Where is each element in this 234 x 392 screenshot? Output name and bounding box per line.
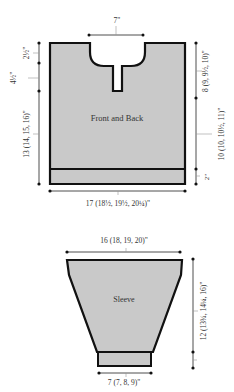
sleeve-cuff-width-dimension: 7 (7, 8, 9)" — [97, 371, 152, 387]
sleeve-length-dimension: 12 (13¾, 14¼, 16)" — [191, 257, 208, 369]
schematic-diagram: Front and Back 7" 2½" 4½" 13 (14, 15, 16… — [0, 0, 234, 392]
length-to-placket-label: 13 (14, 15, 16)" — [22, 110, 31, 157]
armhole-depth-label: 8 (9, 9½, 10)" — [201, 50, 210, 92]
side-length-label: 10 (10, 10½, 11)" — [217, 108, 226, 161]
front-back-piece: Front and Back — [50, 43, 185, 184]
sleeve-length-label: 12 (13¾, 14¼, 16)" — [199, 282, 208, 341]
sleeve-top-width-dimension: 16 (18, 19, 20)" — [65, 236, 181, 254]
placket-depth-label: 4½" — [9, 72, 18, 84]
neck-width-dimension: 7" — [88, 16, 145, 37]
right-dimensions: 8 (9, 9½, 10)" 10 (10, 10½, 11)" 2" — [194, 41, 226, 185]
sleeve-piece: Sleeve — [67, 260, 182, 366]
left-dimensions: 2½" 4½" 13 (14, 15, 16)" — [9, 41, 41, 185]
body-width-dimension: 17 (18½, 19½, 20¼)" — [48, 189, 186, 208]
neck-depth-label: 2½" — [22, 47, 31, 59]
neck-width-label: 7" — [114, 16, 121, 25]
sleeve-cuff — [98, 352, 151, 366]
sleeve-cuff-width-label: 7 (7, 8, 9)" — [108, 378, 140, 387]
ribbing-depth-label: 2" — [203, 174, 211, 181]
body-width-label: 17 (18½, 19½, 20¼)" — [86, 199, 150, 208]
sleeve-body — [67, 260, 182, 352]
front-back-label: Front and Back — [91, 113, 144, 123]
sleeve-top-width-label: 16 (18, 19, 20)" — [100, 236, 147, 245]
sleeve-label: Sleeve — [113, 295, 135, 304]
